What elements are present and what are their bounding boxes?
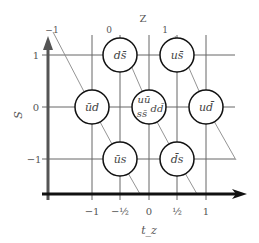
node-label: ds̄: [114, 49, 127, 62]
s-axis-label: S: [12, 111, 25, 119]
z-tick: 0: [106, 25, 112, 35]
node-label: d̄s: [171, 153, 184, 166]
tz-tick: ½: [172, 206, 182, 217]
s-axis: [43, 36, 53, 200]
z-tick: 1: [162, 25, 168, 35]
weight-diagram: ds̄ us̄ ūd uū dd̄ ss̄ ud̄ ūs d̄s −1 −½ 0…: [0, 0, 259, 243]
z-axis-label: Z: [140, 13, 147, 24]
z-tick: −1: [45, 25, 58, 35]
tz-tick: 1: [203, 206, 209, 217]
node-label: ss̄: [137, 108, 148, 119]
tz-tick: 0: [146, 206, 152, 217]
node-label: us̄: [171, 49, 184, 62]
arrow-up-icon: [43, 36, 53, 50]
tz-axis: [42, 189, 247, 199]
node-label: ud̄: [199, 101, 215, 114]
tz-axis-label: t_z: [141, 224, 157, 237]
node-label: uū: [138, 94, 151, 105]
node-label: dd̄: [151, 103, 165, 114]
node-label: ūd: [85, 101, 99, 114]
s-tick: 1: [33, 50, 39, 61]
s-tick: 0: [33, 102, 39, 113]
tz-tick: −½: [111, 206, 129, 217]
s-tick: −1: [27, 154, 42, 165]
tz-tick: −1: [85, 206, 100, 217]
node-label: ūs: [114, 153, 127, 166]
